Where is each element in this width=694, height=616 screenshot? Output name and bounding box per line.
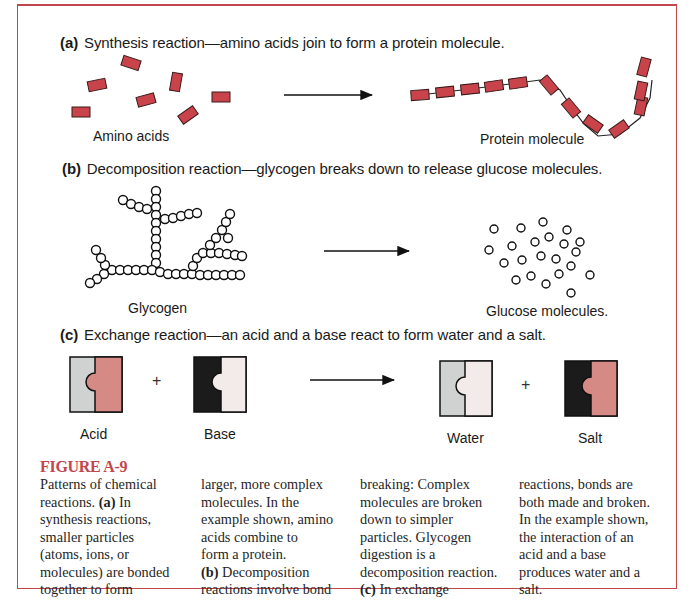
salt-box	[565, 361, 617, 416]
caption-column-1: Patterns of chemical reactions. (a) In s…	[40, 476, 169, 599]
salt-label: Salt	[578, 430, 602, 446]
plus-sign: +	[152, 372, 161, 390]
figure-title: FIGURE A-9	[40, 458, 127, 476]
water-box	[440, 361, 492, 416]
glycogen-label: Glycogen	[128, 300, 187, 316]
glycogen-structure	[86, 187, 247, 288]
acid-box	[70, 357, 122, 412]
glucose-label: Glucose molecules.	[486, 303, 608, 319]
plus-sign: +	[521, 376, 530, 394]
base-label: Base	[204, 426, 236, 442]
base-box	[194, 357, 246, 412]
amino-acids-group	[72, 55, 230, 124]
caption-column-3: breaking: Complex molecules are broken d…	[360, 476, 497, 599]
protein-molecule-label: Protein molecule	[480, 131, 584, 147]
caption-column-4: reactions, bonds are both made and broke…	[519, 476, 650, 599]
protein-molecule-chain	[411, 57, 652, 138]
acid-label: Acid	[80, 426, 107, 442]
water-label: Water	[447, 430, 484, 446]
caption-column-2: larger, more complex molecules. In the e…	[201, 476, 333, 599]
glucose-molecules	[485, 218, 594, 297]
amino-acids-label: Amino acids	[93, 128, 169, 144]
